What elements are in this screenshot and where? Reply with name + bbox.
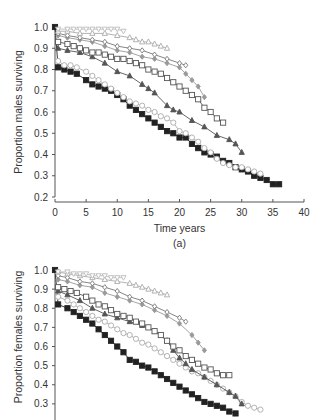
data-point bbox=[214, 403, 219, 408]
data-point bbox=[56, 285, 61, 290]
data-point bbox=[146, 325, 151, 330]
data-point bbox=[227, 373, 232, 378]
data-point bbox=[65, 306, 70, 311]
data-point bbox=[177, 361, 182, 366]
data-point bbox=[146, 67, 151, 72]
data-point bbox=[233, 165, 238, 170]
data-point bbox=[158, 332, 163, 337]
data-point bbox=[65, 41, 70, 46]
data-point bbox=[128, 294, 132, 299]
y-tick-label: 0.9 bbox=[34, 284, 48, 295]
data-point bbox=[56, 39, 61, 44]
data-point bbox=[140, 81, 145, 86]
data-point bbox=[252, 169, 257, 174]
y-tick-label: 1.0 bbox=[34, 265, 48, 276]
data-point bbox=[56, 58, 61, 63]
data-point bbox=[152, 109, 157, 114]
data-point bbox=[233, 411, 238, 416]
data-point bbox=[71, 302, 76, 307]
data-point bbox=[84, 309, 89, 314]
data-point bbox=[90, 305, 95, 310]
x-tick-label: 20 bbox=[174, 207, 186, 218]
y-tick-label: 0.7 bbox=[34, 85, 48, 96]
data-point bbox=[90, 281, 94, 286]
data-point bbox=[96, 78, 101, 83]
data-point bbox=[140, 112, 145, 117]
data-point bbox=[189, 141, 194, 146]
data-point bbox=[102, 319, 107, 324]
data-point bbox=[177, 84, 182, 89]
data-point bbox=[56, 302, 61, 307]
data-point bbox=[189, 357, 194, 362]
data-point bbox=[115, 288, 119, 293]
data-point bbox=[90, 50, 95, 55]
data-point bbox=[121, 313, 126, 318]
data-point bbox=[96, 50, 101, 55]
data-point bbox=[153, 304, 157, 309]
data-point bbox=[133, 101, 138, 106]
data-point bbox=[171, 107, 176, 112]
y-tick-label: 1.0 bbox=[34, 22, 48, 33]
data-point bbox=[245, 403, 250, 408]
data-point bbox=[115, 344, 120, 349]
data-point bbox=[214, 371, 219, 376]
data-point bbox=[115, 44, 119, 49]
data-point bbox=[121, 350, 126, 355]
panel-males: 0.20.30.40.50.60.70.80.91.0Proportion ma… bbox=[12, 22, 310, 250]
data-point bbox=[177, 348, 182, 353]
data-point bbox=[140, 63, 145, 68]
data-point bbox=[183, 353, 188, 358]
data-point bbox=[158, 114, 163, 119]
data-point bbox=[277, 182, 282, 187]
x-tick-label: 30 bbox=[236, 207, 248, 218]
data-point bbox=[165, 309, 169, 314]
y-tick-label: 0.3 bbox=[34, 170, 48, 181]
y-tick-label: 0.9 bbox=[34, 43, 48, 54]
data-point bbox=[165, 56, 169, 61]
data-point bbox=[96, 317, 101, 322]
data-point bbox=[177, 61, 181, 66]
data-point bbox=[65, 298, 70, 303]
data-point bbox=[233, 141, 238, 146]
data-point bbox=[152, 346, 157, 351]
data-point bbox=[84, 69, 89, 74]
data-point bbox=[77, 306, 82, 311]
data-point bbox=[164, 129, 169, 134]
data-point bbox=[102, 332, 107, 337]
data-point bbox=[184, 319, 188, 324]
data-point bbox=[96, 302, 101, 307]
data-point bbox=[84, 78, 89, 83]
data-point bbox=[74, 290, 79, 295]
x-tick-label: 40 bbox=[298, 207, 310, 218]
data-point bbox=[171, 80, 176, 85]
data-point bbox=[96, 84, 101, 89]
data-point bbox=[121, 29, 126, 34]
data-point bbox=[146, 365, 151, 370]
data-point bbox=[177, 315, 181, 320]
data-point bbox=[171, 131, 176, 136]
data-point bbox=[84, 317, 89, 322]
data-point bbox=[196, 139, 201, 144]
y-tick-label: 0.4 bbox=[34, 379, 48, 390]
x-tick-label: 5 bbox=[83, 207, 89, 218]
y-tick-label: 0.8 bbox=[34, 303, 48, 314]
x-tick-label: 10 bbox=[112, 207, 124, 218]
y-axis-label: Proportion males surviving bbox=[12, 50, 24, 174]
data-point bbox=[258, 407, 263, 412]
data-point bbox=[183, 131, 188, 136]
data-point bbox=[74, 65, 79, 70]
data-point bbox=[220, 373, 225, 378]
data-point bbox=[245, 167, 250, 172]
data-point bbox=[152, 369, 157, 374]
data-point bbox=[152, 90, 157, 95]
panel-label: (a) bbox=[173, 237, 186, 249]
data-point bbox=[270, 182, 275, 187]
data-point bbox=[202, 365, 207, 370]
data-point bbox=[214, 156, 219, 161]
data-point bbox=[164, 376, 169, 381]
data-point bbox=[133, 359, 138, 364]
data-point bbox=[171, 380, 176, 385]
data-point bbox=[158, 373, 163, 378]
data-point bbox=[196, 146, 201, 151]
data-point bbox=[208, 150, 213, 155]
